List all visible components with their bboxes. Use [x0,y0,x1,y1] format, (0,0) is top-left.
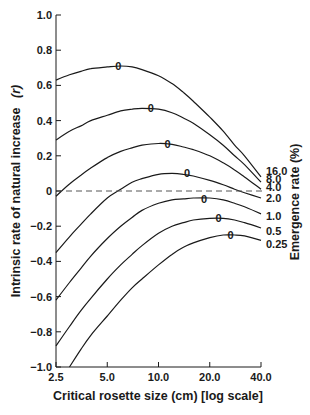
curve-emergence-0.25 [70,235,262,367]
peak-marker: 0 [201,193,207,205]
y-tick-label: 0.8 [37,44,52,56]
chart: 0000000 1.00.80.60.40.20−0.2−0.4−0.6−0.8… [0,0,310,415]
curve-label-0.25: 0.25 [266,238,287,250]
y-axis-title: Intrinsic rate of natural increase (r) [9,85,23,297]
peak-marker: 0 [227,229,233,241]
peak-markers: 0000000 [115,60,233,241]
y-tick-label: 0 [46,185,52,197]
peak-marker: 0 [115,60,121,72]
curve-label-0.5: 0.5 [266,225,281,237]
y-axis-title-text: Intrinsic rate of natural increase [9,107,23,297]
y-tick-label: −0.4 [30,255,53,267]
y-tick-label: −0.2 [30,220,52,232]
emergence-rate-title: Emergence rate (%) [288,144,302,261]
curve-emergence-16.0 [56,66,261,177]
y-tick-label: 0.6 [37,79,52,91]
curves-group [56,66,261,367]
x-tick-label: 10.0 [148,371,169,383]
y-tick-label: 1.0 [37,9,52,21]
peak-marker: 0 [184,167,190,179]
y-axis-symbol: (r) [9,85,23,98]
x-axis-ticks: 2.55.010.020.040.0 [48,362,271,383]
peak-marker: 0 [215,212,221,224]
y-tick-label: −0.8 [30,326,52,338]
x-tick-label: 2.5 [48,371,63,383]
peak-marker: 0 [148,102,154,114]
curve-label-2.0: 2.0 [266,192,281,204]
x-axis-title: Critical rosette size (cm) [log scale] [53,389,263,403]
curve-emergence-1.0 [56,198,261,300]
y-tick-label: −0.6 [30,291,52,303]
x-tick-label: 20.0 [199,371,220,383]
curve-labels: 16.08.04.02.01.00.50.25 [266,165,287,250]
x-tick-label: 5.0 [100,371,115,383]
y-tick-label: 0.2 [37,150,52,162]
y-tick-label: 0.4 [37,115,53,127]
curve-label-1.0: 1.0 [266,210,281,222]
peak-marker: 0 [164,138,170,150]
x-tick-label: 40.0 [250,371,271,383]
